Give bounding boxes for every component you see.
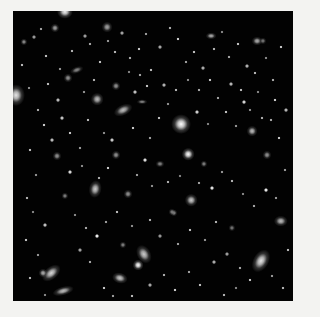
star-point bbox=[163, 274, 165, 276]
star-point bbox=[237, 43, 239, 45]
star-point bbox=[204, 239, 206, 241]
star-point bbox=[167, 181, 169, 183]
star-point bbox=[136, 174, 138, 176]
star-point bbox=[111, 139, 114, 142]
star-point bbox=[221, 171, 223, 173]
galaxy bbox=[51, 24, 60, 33]
star-point bbox=[71, 50, 73, 52]
star-point bbox=[47, 83, 49, 85]
star-point bbox=[131, 225, 133, 227]
star-point bbox=[159, 46, 162, 49]
star-point bbox=[215, 221, 217, 223]
galaxy bbox=[259, 37, 266, 44]
galaxy bbox=[111, 271, 129, 286]
galaxy bbox=[206, 32, 217, 39]
star-point bbox=[134, 91, 137, 94]
star-point bbox=[235, 125, 237, 127]
galaxy bbox=[69, 64, 85, 76]
star-point bbox=[25, 239, 27, 241]
star-point bbox=[167, 103, 169, 105]
galaxy bbox=[124, 190, 133, 199]
star-point bbox=[112, 295, 114, 297]
galaxy bbox=[171, 114, 191, 134]
star-point bbox=[282, 287, 284, 289]
star-point bbox=[32, 211, 34, 213]
star-point bbox=[187, 79, 189, 81]
galaxy bbox=[274, 216, 288, 227]
galaxy bbox=[91, 93, 104, 106]
star-point bbox=[98, 177, 100, 179]
star-point bbox=[189, 229, 191, 231]
star-point bbox=[211, 187, 214, 190]
galaxy bbox=[20, 38, 27, 45]
star-point bbox=[169, 27, 171, 29]
star-point bbox=[240, 89, 242, 91]
star-point bbox=[139, 74, 141, 76]
star-point bbox=[40, 28, 42, 30]
galaxy bbox=[112, 151, 121, 160]
star-point bbox=[199, 284, 201, 286]
star-point bbox=[121, 32, 124, 35]
star-point bbox=[274, 99, 276, 101]
galaxy bbox=[247, 126, 258, 137]
star-point bbox=[107, 40, 109, 42]
star-point bbox=[57, 99, 60, 102]
star-point bbox=[107, 167, 109, 169]
star-point bbox=[44, 294, 46, 296]
star-point bbox=[231, 180, 233, 182]
star-point bbox=[223, 294, 225, 296]
galaxy bbox=[248, 246, 275, 276]
star-point bbox=[29, 277, 31, 279]
star-point bbox=[284, 169, 286, 171]
star-point bbox=[138, 48, 140, 50]
galaxy bbox=[185, 194, 198, 207]
star-point bbox=[270, 119, 272, 121]
galaxy bbox=[53, 152, 62, 161]
star-point bbox=[149, 137, 151, 139]
star-point bbox=[174, 289, 176, 291]
galaxy bbox=[263, 151, 272, 160]
star-point bbox=[158, 117, 160, 119]
star-point bbox=[51, 139, 54, 142]
star-point bbox=[253, 205, 255, 207]
galaxy bbox=[228, 224, 235, 231]
star-point bbox=[185, 61, 187, 63]
star-point bbox=[74, 214, 76, 216]
star-point bbox=[96, 235, 99, 238]
star-point bbox=[261, 117, 263, 119]
star-point bbox=[150, 69, 152, 71]
star-point bbox=[159, 235, 162, 238]
star-point bbox=[105, 221, 107, 223]
star-point bbox=[37, 254, 39, 256]
star-point bbox=[44, 224, 47, 227]
star-point bbox=[131, 295, 133, 297]
star-point bbox=[202, 67, 205, 70]
galaxy bbox=[87, 179, 103, 199]
star-point bbox=[278, 137, 280, 139]
star-point bbox=[198, 182, 200, 184]
star-point bbox=[196, 111, 199, 114]
star-point bbox=[87, 119, 89, 121]
star-point bbox=[188, 271, 190, 273]
star-point bbox=[265, 57, 267, 59]
star-point bbox=[213, 261, 216, 264]
star-point bbox=[146, 85, 148, 87]
galaxy bbox=[102, 22, 113, 33]
star-point bbox=[21, 64, 23, 66]
star-point bbox=[129, 57, 131, 59]
star-point bbox=[89, 43, 91, 45]
star-point bbox=[230, 83, 233, 86]
star-point bbox=[33, 36, 36, 39]
star-point bbox=[114, 51, 116, 53]
star-point bbox=[116, 211, 118, 213]
star-point bbox=[287, 249, 289, 251]
star-point bbox=[93, 79, 95, 81]
star-point bbox=[243, 101, 246, 104]
star-point bbox=[225, 111, 227, 113]
star-point bbox=[85, 227, 87, 229]
galaxy bbox=[61, 192, 68, 199]
star-point bbox=[177, 243, 179, 245]
star-point bbox=[257, 91, 259, 93]
star-point bbox=[207, 123, 209, 125]
star-point bbox=[213, 48, 215, 50]
